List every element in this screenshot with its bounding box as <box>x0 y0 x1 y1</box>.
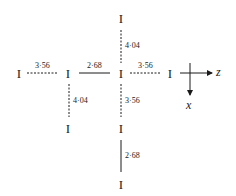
distance-label: 4·04 <box>125 42 140 50</box>
z-axis-label: z <box>216 66 221 78</box>
iodine-atom: I <box>116 178 126 191</box>
iodine-atom: I <box>116 67 126 80</box>
iodine-atom: I <box>116 122 126 135</box>
distance-label: 3·56 <box>138 62 153 70</box>
distance-label: 4·04 <box>73 97 88 105</box>
distance-label: 2·68 <box>87 62 102 70</box>
iodine-atom: I <box>116 12 126 25</box>
iodine-atom: I <box>165 67 175 80</box>
distance-label: 2·68 <box>125 152 140 160</box>
distance-label: 3·56 <box>125 97 140 105</box>
bond-lines <box>0 0 236 196</box>
distance-label: 3·56 <box>35 62 50 70</box>
iodine-atom: I <box>14 67 24 80</box>
iodine-atom: I <box>63 67 73 80</box>
iodine-atom: I <box>63 122 73 135</box>
x-axis-label: x <box>186 99 191 111</box>
